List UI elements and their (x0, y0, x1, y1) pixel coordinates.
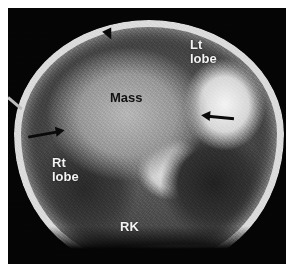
label-rk: RK (120, 220, 139, 233)
label-lt: Lt (190, 38, 202, 51)
speckle-texture (8, 8, 286, 264)
label-lobe-left: lobe (190, 52, 217, 65)
scan-image: Lt lobe Mass Rt lobe RK (8, 8, 286, 264)
label-mass: Mass (110, 91, 143, 104)
label-rt: Rt (52, 156, 66, 169)
label-lobe-right: lobe (52, 170, 79, 183)
